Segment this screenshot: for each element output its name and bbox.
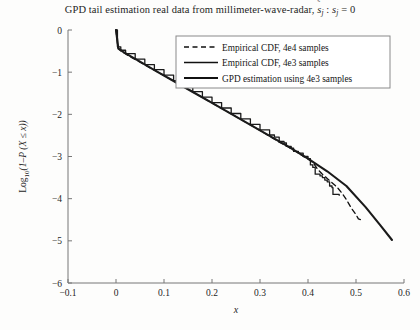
x-tick-label: −0.1	[59, 288, 76, 298]
y-tick-label: −2	[52, 110, 62, 120]
x-tick-label: 0.6	[398, 288, 410, 298]
y-tick-label: −6	[52, 279, 62, 289]
legend-label-1: Empirical CDF, 4e3 samples	[222, 58, 329, 68]
legend-label-2: GPD estimation using 4e3 samples	[222, 74, 353, 84]
y-tick-label: −4	[52, 194, 62, 204]
y-axis-label: Log10(1–P (X ≤ x))	[18, 120, 31, 192]
x-tick-label: 0.4	[302, 288, 314, 298]
y-tick-label: 0	[57, 26, 62, 36]
svg-text:Log10(1–P (X ≤ x)): Log10(1–P (X ≤ x))	[18, 120, 31, 192]
figure-container: GPD tail estimation real data from milli…	[0, 0, 420, 330]
legend-label-0: Empirical CDF, 4e4 samples	[222, 43, 329, 53]
x-tick-label: 0.2	[206, 288, 218, 298]
legend-layer: Empirical CDF, 4e4 samplesEmpirical CDF,…	[176, 36, 390, 88]
y-tick-label: −5	[52, 236, 62, 246]
x-tick-label: 0	[114, 288, 119, 298]
x-tick-label: 0.3	[254, 288, 266, 298]
y-tick-label: −3	[52, 152, 62, 162]
x-tick-label: 0.5	[350, 288, 362, 298]
x-axis-label: x	[233, 304, 239, 315]
chart-plot-area: −0.100.10.20.30.40.50.60−1−2−3−4−5−6xLog…	[0, 0, 420, 330]
x-tick-label: 0.1	[158, 288, 170, 298]
y-tick-label: −1	[52, 68, 62, 78]
